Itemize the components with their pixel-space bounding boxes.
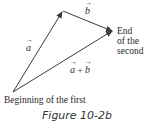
- beginning-of-first-label: Beginning of the first: [4, 95, 86, 105]
- end-label-line-1: End: [117, 26, 143, 36]
- vector-diagram: [0, 0, 156, 124]
- vector-arrow-icon: →: [85, 0, 90, 7]
- vector-arrow-icon: →: [70, 58, 75, 66]
- vector-a-label: → a: [26, 42, 31, 53]
- vector-sum-label: → a + → b: [70, 64, 90, 75]
- vector-b-label: → b: [85, 5, 90, 16]
- end-label-line-3: second: [117, 46, 143, 56]
- end-of-second-label: End of the second: [117, 26, 143, 56]
- figure-caption: Figure 10-2b: [42, 109, 112, 122]
- vector-arrow-icon: →: [85, 58, 90, 66]
- end-label-line-2: of the: [117, 36, 143, 46]
- vector-arrow-icon: →: [26, 36, 31, 44]
- vector-a-arrow: [13, 12, 62, 92]
